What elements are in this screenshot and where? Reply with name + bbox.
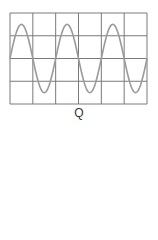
figure-label: Q (0, 105, 158, 121)
